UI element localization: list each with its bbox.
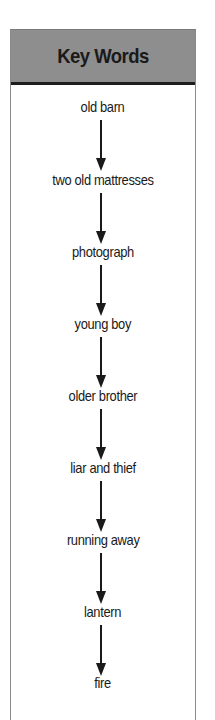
keyword-item: liar and thief (11, 459, 195, 477)
keyword-item: young boy (11, 315, 195, 333)
keyword-item: photograph (11, 243, 195, 261)
panel-title: Key Words (57, 44, 148, 68)
keyword-item: older brother (11, 387, 195, 405)
key-words-panel: Key Words old barn two old mattresses ph… (10, 29, 196, 720)
keyword-item: old barn (11, 98, 195, 116)
keyword-item: running away (11, 531, 195, 549)
keyword-item: two old mattresses (11, 171, 195, 189)
keyword-item: lantern (11, 603, 195, 621)
panel-header: Key Words (11, 30, 195, 85)
keyword-item: fire (11, 674, 195, 692)
